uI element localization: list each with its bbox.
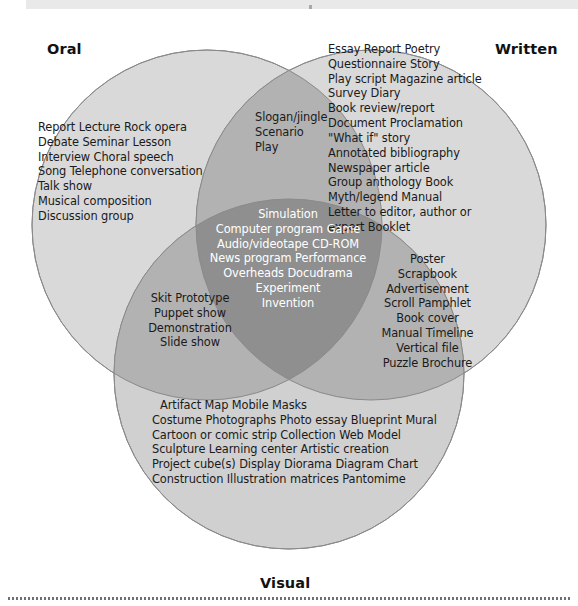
list-item: Interview Choral speech — [38, 150, 253, 165]
list-item: Scenario — [255, 125, 355, 140]
list-item: Debate Seminar Lesson — [38, 135, 253, 150]
list-item: Slogan/jingle — [255, 110, 355, 125]
label-oral: Oral — [47, 41, 82, 57]
region-written-items: Essay Report Poetry Questionnaire Story … — [328, 42, 553, 235]
list-item: Newspaper article — [328, 161, 553, 176]
list-item: Costume Photographs Photo essay Blueprin… — [152, 413, 452, 428]
list-item: Play script Magazine article — [328, 72, 553, 87]
list-item: Overheads Docudrama — [198, 266, 378, 281]
list-item: Sculpture Learning center Artistic creat… — [152, 442, 452, 457]
list-item: Book review/report — [328, 101, 553, 116]
list-item: Demonstration — [130, 321, 250, 336]
list-item: Puzzle Brochure — [370, 356, 485, 371]
region-visual-items: Artifact Map Mobile Masks Costume Photog… — [152, 398, 452, 487]
region-written-visual-items: Poster Scrapbook Advertisement Scroll Pa… — [370, 252, 485, 371]
list-item: Puppet show — [130, 306, 250, 321]
list-item: Myth/legend Manual — [328, 190, 553, 205]
list-item: Group anthology Book — [328, 175, 553, 190]
list-item: Manual Timeline — [370, 326, 485, 341]
list-item: Construction Illustration matrices Panto… — [152, 472, 452, 487]
list-item: Song Telephone conversation — [38, 164, 253, 179]
list-item: Document Proclamation — [328, 116, 553, 131]
list-item: Vertical file — [370, 341, 485, 356]
list-item: Play — [255, 140, 355, 155]
list-item: Computer program Game — [198, 222, 378, 237]
list-item: Simulation — [198, 207, 378, 222]
list-item: Artifact Map Mobile Masks — [152, 398, 452, 413]
list-item: Book cover — [370, 311, 485, 326]
list-item: Skit Prototype — [130, 291, 250, 306]
list-item: Essay Report Poetry — [328, 42, 553, 57]
region-oral-written-items: Slogan/jingle Scenario Play — [255, 110, 355, 154]
list-item: Slide show — [130, 335, 250, 350]
list-item: Survey Diary — [328, 86, 553, 101]
list-item: Scroll Pamphlet — [370, 296, 485, 311]
list-item: News program Performance — [198, 251, 378, 266]
bottom-dotted-rule — [8, 597, 570, 600]
list-item: Questionnaire Story — [328, 57, 553, 72]
list-item: Scrapbook — [370, 267, 485, 282]
list-item: Talk show — [38, 179, 253, 194]
list-item: Audio/videotape CD-ROM — [198, 237, 378, 252]
list-item: Poster — [370, 252, 485, 267]
region-oral-visual-items: Skit Prototype Puppet show Demonstration… — [130, 291, 250, 350]
list-item: Project cube(s) Display Diorama Diagram … — [152, 457, 452, 472]
list-item: "What if" story — [328, 131, 553, 146]
list-item: Annotated bibliography — [328, 146, 553, 161]
list-item: Report Lecture Rock opera — [38, 120, 253, 135]
venn-diagram-page: Oral Written Visual Report Lecture Rock … — [0, 0, 578, 606]
list-item: Advertisement — [370, 282, 485, 297]
label-visual: Visual — [260, 575, 310, 591]
list-item: Cartoon or comic strip Collection Web Mo… — [152, 428, 452, 443]
